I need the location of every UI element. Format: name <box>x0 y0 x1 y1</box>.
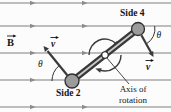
velocity-vector-side2 <box>44 46 68 75</box>
vector-overhead-arrow-icons <box>7 35 154 62</box>
velocity-label-side2: v <box>51 40 55 50</box>
side4-label: Side 4 <box>120 9 145 19</box>
angle-label-side2: θ <box>38 60 43 70</box>
angle-arc-side2 <box>52 66 59 81</box>
angle-label-side4: θ <box>157 31 162 41</box>
physics-diagram-rotating-rod-in-field: B v v θ θ Side 4 Side 2 Axis of rotation <box>0 0 171 112</box>
magnetic-field-label: B <box>7 38 14 49</box>
axis-of-rotation-label: Axis of rotation <box>109 84 157 105</box>
rotation-axis-pivot <box>102 52 108 58</box>
side2-terminal <box>65 74 79 88</box>
angle-arc-side4 <box>146 26 155 44</box>
side4-terminal <box>132 23 145 36</box>
velocity-label-side4: v <box>146 63 150 73</box>
side2-label: Side 2 <box>56 89 81 99</box>
